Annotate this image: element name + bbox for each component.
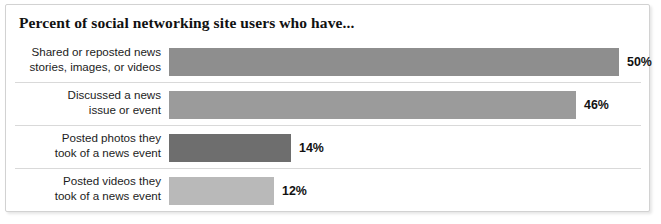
table-row: Posted videos they took of a news event … — [6, 169, 649, 212]
row-label-shared-reposted: Shared or reposted news stories, images,… — [14, 44, 161, 74]
bar-posted-photos — [169, 134, 291, 162]
chart-figure: Percent of social networking site users … — [0, 0, 661, 224]
bar-track: 46% — [169, 91, 641, 119]
bar-discussed-news — [169, 91, 576, 119]
row-label-line1: Discussed a news — [68, 88, 161, 101]
row-label-discussed-news: Discussed a news issue or event — [14, 87, 161, 117]
bar-value-discussed-news: 46% — [584, 98, 609, 112]
row-label-line2: took of a news event — [14, 188, 161, 203]
row-label-line2: took of a news event — [14, 145, 161, 160]
bar-value-shared-reposted: 50% — [627, 55, 652, 69]
row-label-line2: stories, images, or videos — [14, 59, 161, 74]
bar-track: 50% — [169, 48, 641, 76]
bar-track: 14% — [169, 134, 641, 162]
bar-value-posted-videos: 12% — [282, 184, 307, 198]
bar-posted-videos — [169, 177, 274, 205]
row-label-line2: issue or event — [14, 102, 161, 117]
row-label-line1: Posted videos they — [63, 174, 161, 187]
bar-track: 12% — [169, 177, 641, 205]
table-row: Shared or reposted news stories, images,… — [6, 40, 649, 83]
row-label-line1: Shared or reposted news — [31, 45, 161, 58]
table-row: Discussed a news issue or event 46% — [6, 83, 649, 126]
row-label-posted-videos: Posted videos they took of a news event — [14, 173, 161, 203]
chart-panel: Percent of social networking site users … — [5, 4, 650, 212]
table-row: Posted photos they took of a news event … — [6, 126, 649, 169]
page-title: Percent of social networking site users … — [19, 14, 354, 32]
row-label-posted-photos: Posted photos they took of a news event — [14, 130, 161, 160]
row-label-line1: Posted photos they — [62, 131, 161, 144]
bar-shared-reposted — [169, 48, 619, 76]
bar-value-posted-photos: 14% — [299, 141, 324, 155]
bar-rows: Shared or reposted news stories, images,… — [6, 40, 649, 212]
